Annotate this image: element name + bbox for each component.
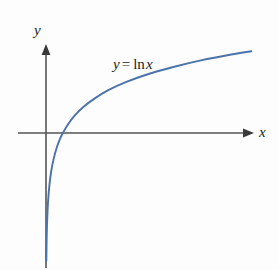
equation-operator: = (120, 56, 132, 72)
curve-equation-label: y=ln x (113, 55, 153, 73)
plot-canvas (0, 0, 279, 270)
x-axis-label: x (259, 125, 266, 140)
logarithm-function-figure: y x y=ln x (0, 0, 279, 270)
y-axis-arrowhead-icon (42, 44, 51, 55)
y-axis-label: y (34, 23, 41, 38)
equation-function-name: ln (132, 56, 145, 72)
x-axis (18, 129, 254, 138)
ln-curve (46, 51, 251, 261)
x-axis-arrowhead-icon (243, 129, 254, 138)
equation-lhs: y (113, 56, 120, 72)
equation-argument: x (146, 56, 153, 72)
